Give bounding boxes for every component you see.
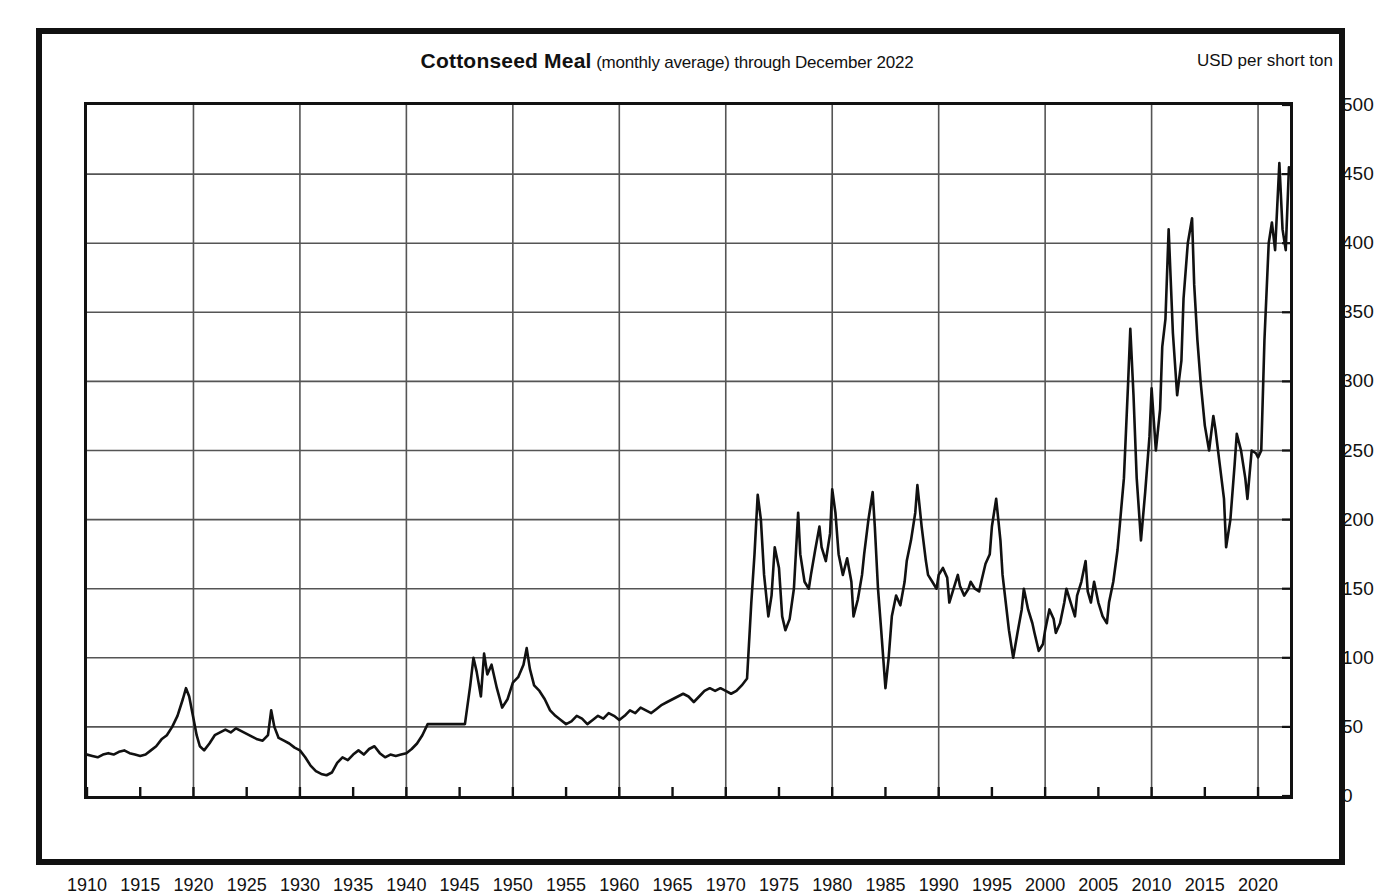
chart-figure-inner: Cottonseed Meal (monthly average) throug… <box>42 34 1339 859</box>
y-tick-label-250: 250 <box>1342 441 1381 460</box>
y-tick-label-50: 50 <box>1342 717 1381 736</box>
y-tick-label-500: 500 <box>1342 95 1381 114</box>
y-gridlines <box>87 174 1290 727</box>
chart-figure-frame: Cottonseed Meal (monthly average) throug… <box>36 28 1345 865</box>
chart-header: Cottonseed Meal (monthly average) throug… <box>42 46 1339 80</box>
y-axis-unit-label: USD per short ton <box>1197 48 1333 74</box>
chart-title-subtitle: (monthly average) through December 2022 <box>592 53 914 72</box>
y-tick-label-400: 400 <box>1342 233 1381 252</box>
chart-title: Cottonseed Meal (monthly average) throug… <box>42 46 1292 78</box>
y-tick-label-350: 350 <box>1342 302 1381 321</box>
plot-area <box>84 102 1293 799</box>
plot-wrapper: 050100150200250300350400450500 191019151… <box>84 102 1293 799</box>
chart-plot-svg <box>87 105 1290 796</box>
y-tick-label-150: 150 <box>1342 579 1381 598</box>
chart-title-main: Cottonseed Meal <box>421 49 592 72</box>
x-tick-label-2020: 2020 <box>1223 876 1293 894</box>
y-axis-ticks <box>1282 105 1290 796</box>
y-tick-label-450: 450 <box>1342 164 1381 183</box>
y-tick-label-300: 300 <box>1342 371 1381 390</box>
x-axis-ticks <box>87 787 1258 796</box>
price-series-line <box>87 163 1289 775</box>
y-tick-label-200: 200 <box>1342 510 1381 529</box>
y-tick-label-0: 0 <box>1342 786 1381 805</box>
y-tick-label-100: 100 <box>1342 648 1381 667</box>
